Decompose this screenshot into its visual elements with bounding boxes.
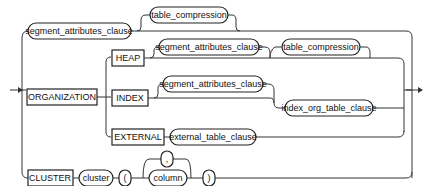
svg-text:INDEX: INDEX xyxy=(116,93,144,103)
svg-text:segment_attributes_clause: segment_attributes_clause xyxy=(155,42,263,52)
svg-text:EXTERNAL: EXTERNAL xyxy=(114,132,162,142)
svg-text:index_org_table_clause: index_org_table_clause xyxy=(281,103,376,113)
svg-text:(: ( xyxy=(124,173,127,183)
svg-text:cluster: cluster xyxy=(83,173,110,183)
railroad-diagram: segment_attributes_clause table_compress… xyxy=(0,0,431,186)
svg-text:table_compression: table_compression xyxy=(151,10,227,20)
exit-arrow-icon xyxy=(418,87,423,93)
svg-text:CLUSTER: CLUSTER xyxy=(29,173,72,183)
svg-text:segment_attributes_clause: segment_attributes_clause xyxy=(159,79,267,89)
svg-text:external_table_clause: external_table_clause xyxy=(169,132,257,142)
svg-text:segment_attributes_clause: segment_attributes_clause xyxy=(25,26,133,36)
svg-text:HEAP: HEAP xyxy=(116,53,141,63)
svg-text:,: , xyxy=(166,154,169,164)
svg-text:column: column xyxy=(153,173,182,183)
svg-text:table_compression: table_compression xyxy=(283,42,359,52)
svg-text:): ) xyxy=(208,173,211,183)
svg-text:ORGANIZATION: ORGANIZATION xyxy=(28,92,96,102)
